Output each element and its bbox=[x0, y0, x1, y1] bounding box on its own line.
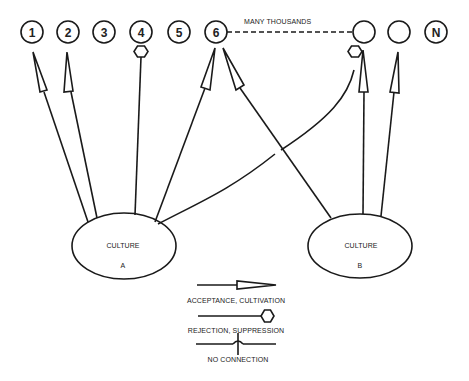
edge-a-to-6 bbox=[155, 48, 215, 222]
legend-rejection: REJECTION, SUPPRESSION bbox=[188, 310, 284, 334]
culture-a-letter: A bbox=[121, 262, 126, 269]
node-blank-1 bbox=[353, 21, 375, 43]
node-3-label: 3 bbox=[101, 26, 108, 40]
node-2-label: 2 bbox=[65, 26, 72, 40]
legend-rejection-label: REJECTION, SUPPRESSION bbox=[188, 327, 284, 334]
edge-a-to-4 bbox=[134, 46, 148, 215]
legend: ACCEPTANCE, CULTIVATION REJECTION, SUPPR… bbox=[187, 281, 285, 363]
culture-a-title: CULTURE bbox=[106, 242, 139, 249]
rejection-hexagon-icon bbox=[261, 310, 274, 322]
node-5: 5 bbox=[168, 21, 190, 43]
node-1: 1 bbox=[21, 21, 43, 43]
diagram-canvas: 1 2 3 4 5 6 MANY THOUSANDS N bbox=[0, 0, 469, 381]
legend-no-connection-label: NO CONNECTION bbox=[208, 356, 269, 363]
node-3: 3 bbox=[93, 21, 115, 43]
node-5-label: 5 bbox=[176, 26, 183, 40]
culture-a: CULTURE A bbox=[72, 213, 176, 279]
node-n-label: N bbox=[432, 26, 441, 40]
legend-acceptance-label: ACCEPTANCE, CULTIVATION bbox=[187, 297, 285, 304]
edge-b-to-blank2 bbox=[381, 52, 399, 216]
node-1-label: 1 bbox=[29, 26, 36, 40]
culture-b-title: CULTURE bbox=[344, 242, 377, 249]
many-thousands-label: MANY THOUSANDS bbox=[244, 18, 311, 25]
node-n: N bbox=[425, 21, 447, 43]
node-6-label: 6 bbox=[213, 26, 220, 40]
node-4-label: 4 bbox=[138, 26, 145, 40]
culture-b-letter: B bbox=[358, 262, 363, 269]
rejection-hexagon-icon bbox=[348, 46, 362, 57]
legend-acceptance: ACCEPTANCE, CULTIVATION bbox=[187, 281, 285, 304]
node-6: 6 bbox=[205, 21, 227, 43]
rejection-hexagon-icon bbox=[134, 46, 148, 57]
culture-b: CULTURE B bbox=[308, 214, 412, 278]
edge-a-to-blank1 bbox=[158, 46, 362, 224]
edge-a-to-2 bbox=[64, 52, 97, 218]
acceptance-arrow-icon bbox=[237, 281, 276, 289]
edge-b-to-6 bbox=[223, 48, 331, 218]
node-blank-2 bbox=[388, 21, 410, 43]
node-4: 4 bbox=[130, 21, 152, 43]
edge-b-to-blank1 bbox=[359, 50, 368, 214]
legend-no-connection: NO CONNECTION bbox=[196, 333, 276, 363]
node-2: 2 bbox=[57, 21, 79, 43]
